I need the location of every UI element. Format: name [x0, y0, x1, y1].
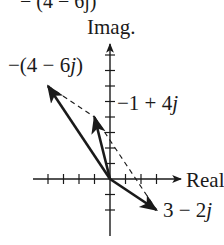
dashed-line — [95, 117, 157, 210]
vector-label-3-minus-2j: 3 − 2j — [163, 200, 212, 221]
phasor-diagram: − (4 − 6j) Imag. Real −(4 − 6j) −1 + 4j … — [0, 0, 224, 245]
vector-arrow-v1 — [48, 86, 110, 179]
vector-label-neg-1-plus-4j: −1 + 4j — [117, 93, 178, 114]
x-axis-label: Real — [186, 170, 224, 191]
cropped-top-text: − (4 − 6j) — [20, 0, 96, 13]
dashed-line — [48, 86, 95, 117]
vector-arrow-v3 — [110, 179, 157, 210]
vector-label-neg-4-minus-6j: −(4 − 6j) — [8, 55, 83, 76]
y-axis-label: Imag. — [87, 17, 135, 38]
